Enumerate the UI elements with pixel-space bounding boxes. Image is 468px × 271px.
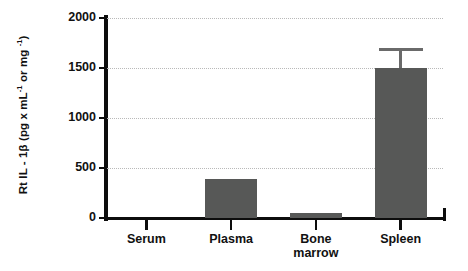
x-tick-label-line: marrow — [266, 246, 366, 260]
y-axis-title-exponent-1: -1 — [15, 85, 24, 92]
y-tick-label-500: 500 — [75, 160, 96, 174]
chart-figure: Rt IL - 1β (pg x mL-1 or mg -1) 05001000… — [0, 0, 468, 271]
x-tick-bone-marrow — [315, 220, 317, 230]
y-axis-title: Rt IL - 1β (pg x mL-1 or mg -1) — [15, 5, 29, 225]
y-tick-label-2000: 2000 — [68, 10, 96, 24]
y-tick-1000 — [99, 117, 107, 119]
y-tick-0 — [99, 217, 107, 219]
bar-spleen — [375, 68, 427, 218]
y-axis-title-exponent-2: -1 — [15, 39, 24, 46]
x-tick-label-line: Serum — [127, 232, 166, 246]
y-axis-title-container: Rt IL - 1β (pg x mL-1 or mg -1) — [0, 0, 34, 240]
x-tick-plasma — [230, 220, 232, 230]
x-tick-spleen — [399, 220, 401, 230]
y-tick-500 — [99, 167, 107, 169]
x-tick-serum — [145, 220, 147, 230]
x-axis-end-tick — [443, 208, 446, 221]
y-tick-2000 — [99, 17, 107, 19]
y-axis-title-prefix: Rt IL - 1β (pg x mL — [17, 92, 29, 194]
y-axis-title-suffix: ) — [17, 36, 29, 40]
y-tick-label-1500: 1500 — [68, 60, 96, 74]
y-tick-label-0: 0 — [89, 210, 96, 224]
gridline-2000 — [107, 18, 443, 19]
x-tick-label-line: Bone — [300, 232, 331, 246]
x-tick-label-spleen: Spleen — [351, 232, 451, 246]
x-tick-label-line: Plasma — [209, 232, 253, 246]
bar-plasma — [205, 179, 257, 218]
error-bar-cap-spleen — [379, 48, 423, 51]
y-tick-1500 — [99, 67, 107, 69]
y-axis-title-middle: or mg — [17, 46, 29, 85]
bar-bone-marrow — [290, 213, 342, 218]
x-tick-label-line: Spleen — [380, 232, 421, 246]
y-tick-label-1000: 1000 — [68, 110, 96, 124]
